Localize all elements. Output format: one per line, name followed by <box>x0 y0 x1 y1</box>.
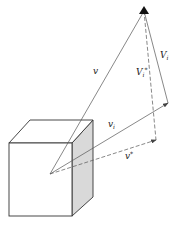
label-v-star: v* <box>125 150 133 161</box>
label-V-i: Vi <box>160 50 169 61</box>
label-v-i: vi <box>108 119 115 130</box>
vector-diagram: v vi v* Vi Vi* <box>0 0 180 225</box>
label-v: v <box>93 66 98 76</box>
label-V-i-star: Vi* <box>136 66 147 78</box>
cube-front-face <box>9 143 72 216</box>
cube <box>9 120 93 216</box>
vector-V-i-star <box>144 11 156 140</box>
apex-triangle-icon <box>139 6 149 14</box>
